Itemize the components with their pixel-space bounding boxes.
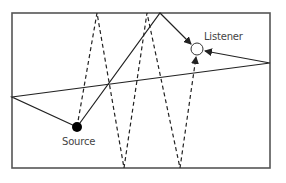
source-dot — [72, 122, 82, 132]
listener-circle — [191, 43, 203, 55]
reflection-diagram — [0, 0, 286, 183]
source-label: Source — [62, 136, 95, 147]
listener-label: Listener — [204, 31, 243, 42]
solid-two-wall-reflection-path — [12, 51, 270, 127]
